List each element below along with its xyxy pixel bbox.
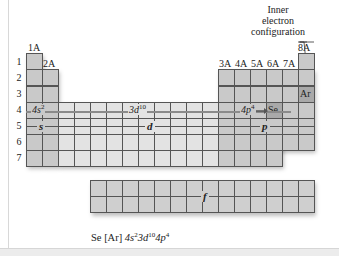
group-label-8a: 8A [298,43,310,53]
period-label-2: 2 [14,73,24,83]
p-block-cell [250,86,267,103]
period-label-6: 6 [14,137,24,147]
label-4p4: 4p4 [240,104,256,115]
p-block-cell [218,86,235,103]
s-block-cell [42,86,59,103]
p-block-cell [234,134,251,151]
d-block-cell [74,134,91,151]
f-block-cell [218,180,235,197]
p-block-cell [250,134,267,151]
s-block-cell [26,53,43,70]
f-block-cell [266,180,283,197]
f-block-cell [106,196,123,213]
p-block-cell [266,134,283,151]
s-block-cell [26,150,43,167]
p-block-cell [234,69,251,86]
f-block-cell [218,196,235,213]
arrow-right-icon [256,107,268,115]
p-block-cell [282,69,299,86]
d-block-cell [186,134,203,151]
p-block-cell [282,86,299,103]
p-block-cell [250,150,267,167]
p-block-cell [234,150,251,167]
element-symbol: Ar [300,89,311,99]
s-block-cell [42,134,59,151]
electron-configuration-formula: Se [Ar] 4s23d104p4 [91,232,169,243]
group-label-3a: 3A [219,59,231,69]
d-block-cell [58,150,75,167]
element-symbol: Se [268,105,278,115]
f-block-cell [170,196,187,213]
f-block-cell [282,196,299,213]
f-block-cell [154,196,171,213]
d-block-cell [138,150,155,167]
f-block-cell [266,196,283,213]
period-label-5: 5 [14,121,24,131]
f-block-cell [90,180,107,197]
d-block-cell [170,150,187,167]
f-block-cell [234,196,251,213]
group-label-5a: 5A [251,59,263,69]
f-block-cell [138,196,155,213]
d-block-cell [122,134,139,151]
p-block-label: p [260,121,270,132]
p-block-cell [298,53,315,70]
d-block-cell [154,150,171,167]
d-block-cell [106,150,123,167]
p-block-cell [218,150,235,167]
group-label-7a: 7A [283,59,295,69]
f-block-cell [122,180,139,197]
bottom-bar [0,248,339,256]
p-block-cell [298,102,315,119]
p-block-cell [218,69,235,86]
d-block-cell [122,150,139,167]
f-block-cell [138,180,155,197]
periodic-table-diagram: Inner electron configuration 1A 2A 3A 4A… [0,0,339,248]
d-block-cell [90,150,107,167]
d-block-cell [202,150,219,167]
p-block-cell [266,69,283,86]
s-block-cell [26,69,43,86]
d-block-cell [138,134,155,151]
element-ar: Ar [298,86,315,103]
p-block-cell [218,134,235,151]
d-block-cell [170,134,187,151]
p-block-cell [266,150,283,167]
f-block-cell [298,180,315,197]
group-label-4a: 4A [235,59,247,69]
f-block-cell [250,196,267,213]
group-label-1a: 1A [28,43,40,53]
d-block-cell [90,134,107,151]
f-block-label: f [201,191,209,202]
f-block-cell [282,180,299,197]
block-label-line [26,126,314,127]
p-block-cell [298,69,315,86]
p-block-cell [266,86,283,103]
p-block-cell [298,134,315,151]
d-block-label: d [145,121,155,132]
label-3d10: 3d10 [128,104,147,115]
period-label-4: 4 [14,105,24,115]
s-block-cell [42,150,59,167]
d-block-cell [186,150,203,167]
d-block-cell [58,134,75,151]
f-block-cell [250,180,267,197]
period-label-7: 7 [14,153,24,163]
f-block-cell [234,180,251,197]
group-label-2a: 2A [43,59,55,69]
f-block-cell [122,196,139,213]
s-block-cell [26,134,43,151]
f-block-cell [90,196,107,213]
period-label-1: 1 [14,57,24,67]
f-block-cell [170,180,187,197]
d-block-cell [74,150,91,167]
d-block-cell [106,134,123,151]
label-4s2: 4s2 [31,104,45,115]
f-block-cell [298,196,315,213]
s-block-cell [42,69,59,86]
d-block-cell [154,134,171,151]
f-block-cell [106,180,123,197]
group-label-6a: 6A [267,59,279,69]
period-label-3: 3 [14,89,24,99]
p-block-cell [250,69,267,86]
